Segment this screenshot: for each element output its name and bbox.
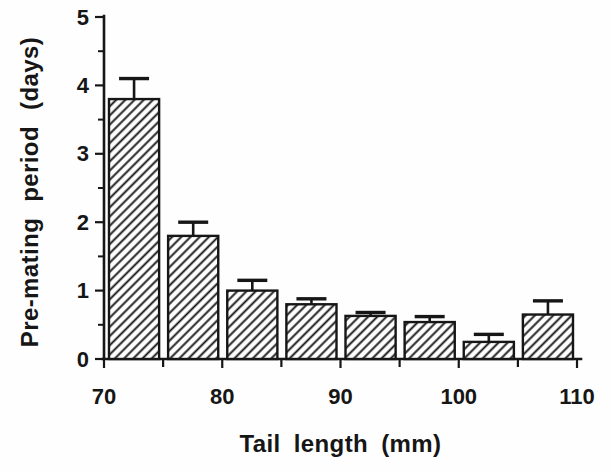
- bar: [346, 316, 396, 359]
- x-tick-label: 80: [210, 384, 234, 409]
- chart-canvas: 012345708090100110: [0, 0, 612, 471]
- bar: [109, 99, 159, 359]
- x-tick-label: 70: [92, 384, 116, 409]
- y-tick-label: 3: [77, 141, 89, 166]
- y-tick-label: 2: [77, 210, 89, 235]
- x-axis: 708090100110: [92, 359, 595, 409]
- y-tick-label: 1: [77, 278, 89, 303]
- bar: [227, 291, 277, 359]
- x-tick-label: 100: [440, 384, 477, 409]
- bars-group: [109, 79, 573, 359]
- y-tick-label: 5: [77, 5, 89, 30]
- bar: [405, 322, 455, 359]
- y-tick-label: 4: [77, 73, 90, 98]
- bar: [168, 236, 218, 359]
- x-tick-label: 110: [559, 384, 595, 409]
- y-tick-label: 0: [77, 347, 89, 372]
- y-axis: 012345: [77, 5, 104, 372]
- bar: [523, 315, 573, 359]
- bar-chart-figure: 012345708090100110 Pre-mating period (da…: [0, 0, 612, 471]
- bar: [286, 304, 336, 359]
- x-tick-label: 90: [328, 384, 352, 409]
- x-axis-title: Tail length (mm): [104, 430, 577, 458]
- y-axis-title: Pre-mating period (days): [16, 37, 44, 347]
- bar: [464, 342, 514, 359]
